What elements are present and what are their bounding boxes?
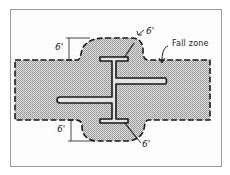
dimension-label-bottom-left: 6' xyxy=(57,124,65,134)
dimension-label-bottom-right: 6' xyxy=(142,139,150,149)
fall-zone-label: Fall zone xyxy=(172,39,209,48)
dimension-label-top-left: 6' xyxy=(55,42,63,52)
fall-zone-diagram xyxy=(0,0,230,175)
dimension-label-top-right: 6' xyxy=(146,26,154,36)
